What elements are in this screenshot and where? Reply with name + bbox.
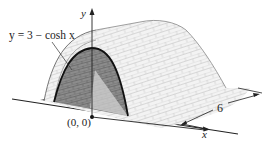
length-dimension-label: 6 [217,101,223,116]
x-axis-label: x [202,128,207,140]
equation-label: y = 3 − cosh x [9,29,75,41]
y-axis-label: y [81,7,86,19]
dim-arrow-right-icon [253,93,260,97]
y-axis-arrow-icon [90,8,95,15]
origin-label: (0, 0) [67,116,91,128]
tunnel-diagram [0,0,271,146]
tunnel-arch-figure: y = 3 − cosh x y x (0, 0) 6 [0,0,271,146]
